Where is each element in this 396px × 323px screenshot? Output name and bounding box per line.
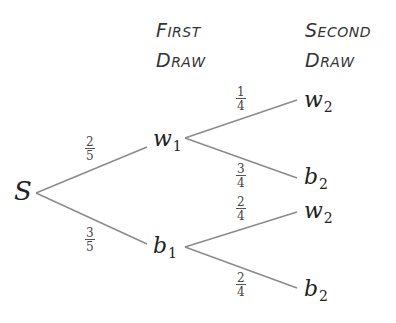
- prob-w1-b2: 3 4: [236, 163, 246, 189]
- node-w1: w1: [153, 128, 182, 157]
- node-b1-b2: b2: [304, 278, 328, 307]
- header-second-line1: Second: [305, 16, 371, 46]
- root-node-s: S: [14, 180, 32, 202]
- header-first-line1: First: [156, 16, 206, 46]
- node-b1-w2: w2: [304, 200, 333, 229]
- prob-s-b1: 3 5: [85, 227, 95, 253]
- header-second-draw: Second Draw: [305, 16, 371, 76]
- node-w1-b2: b2: [304, 166, 328, 195]
- prob-b1-w2: 2 4: [236, 196, 246, 222]
- header-first-line2: Draw: [156, 46, 206, 76]
- header-second-line2: Draw: [305, 46, 371, 76]
- node-b1: b1: [153, 235, 177, 264]
- prob-s-w1: 2 5: [85, 136, 95, 162]
- prob-w1-w2: 1 4: [236, 86, 246, 112]
- node-w1-w2: w2: [304, 89, 333, 118]
- prob-b1-b2: 2 4: [236, 272, 246, 298]
- probability-tree-diagram: First Draw Second Draw S w1 b1 w2 b2 w2 …: [0, 0, 396, 323]
- header-first-draw: First Draw: [156, 16, 206, 76]
